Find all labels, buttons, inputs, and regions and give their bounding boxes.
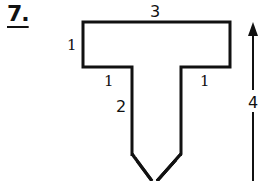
label-stem-length: 2	[116, 97, 126, 116]
label-right-overhang: 1	[200, 72, 210, 90]
label-top-width: 3	[150, 2, 160, 21]
label-total-height: 4	[248, 93, 258, 112]
t-shape-outline	[83, 22, 230, 181]
t-shape-diagram: 3 1 1 1 2 4	[0, 0, 259, 181]
label-arm-height: 1	[67, 36, 77, 54]
label-left-overhang: 1	[104, 72, 114, 90]
arrow-up-icon	[248, 22, 258, 36]
